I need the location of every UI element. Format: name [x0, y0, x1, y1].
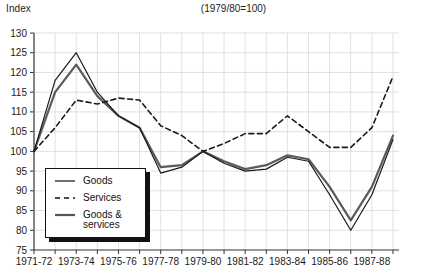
solid-thin-line-swatch-icon [54, 176, 76, 186]
legend-label-services: Services [83, 193, 121, 203]
x-axis-tick-label: 1971-72 [16, 256, 53, 267]
x-axis-tick-label: 1975-76 [100, 256, 137, 267]
series-line-services [34, 76, 393, 151]
y-axis-tick-label: 80 [16, 225, 28, 236]
x-axis-tick-label: 1977-78 [142, 256, 179, 267]
legend-item-goods[interactable]: Goods [54, 176, 112, 186]
y-axis-tick-label: 110 [11, 106, 27, 117]
y-axis-tick-label: 95 [16, 166, 28, 177]
y-axis-tick-label: 125 [10, 47, 27, 58]
legend-item-services[interactable]: Services [54, 193, 121, 203]
y-axis-tick-label: 85 [16, 205, 28, 216]
dashed-line-swatch-icon [54, 193, 76, 203]
legend: Goods Services Goods & services [45, 168, 146, 238]
legend-item-goods-and-services[interactable]: Goods & services [54, 210, 122, 230]
x-axis-tick-label: 1973-74 [58, 256, 95, 267]
y-axis-tick-label: 130 [10, 28, 27, 39]
y-axis-tick-label: 90 [16, 185, 28, 196]
x-axis-tick-label: 1981-82 [227, 256, 264, 267]
x-axis-tick-label: 1987-88 [354, 256, 391, 267]
legend-label-goods-and-services: Goods & services [83, 210, 122, 230]
x-axis-tick-label: 1979-80 [185, 256, 222, 267]
x-axis-tick-label: 1985-86 [311, 256, 348, 267]
chart-container: Index (1979/80=100) 13012512011511010510… [0, 0, 427, 279]
y-axis-tick-label: 100 [10, 146, 27, 157]
x-axis-tick-label: 1983-84 [269, 256, 306, 267]
y-axis-tick-label: 105 [10, 126, 27, 137]
y-axis-tick-label: 75 [16, 245, 28, 256]
legend-label-goods: Goods [83, 176, 112, 186]
y-axis-tick-label: 120 [10, 67, 27, 78]
solid-thick-line-swatch-icon [54, 210, 76, 220]
y-axis-tick-label: 115 [11, 87, 27, 98]
